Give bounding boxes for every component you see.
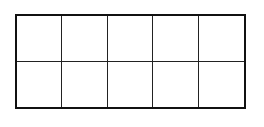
grid-cell-r0-c1: [62, 16, 107, 62]
grid-cell-r0-c0: [17, 16, 62, 62]
grid-cell-r0-c3: [153, 16, 198, 62]
grid-cell-r1-c1: [62, 62, 107, 108]
grid-cell-r0-c2: [108, 16, 153, 62]
ten-frame-grid: [15, 14, 246, 109]
grid-cell-r1-c0: [17, 62, 62, 108]
grid-cell-r0-c4: [199, 16, 244, 62]
grid-cell-r1-c4: [199, 62, 244, 108]
grid-cell-r1-c2: [108, 62, 153, 108]
grid-cell-r1-c3: [153, 62, 198, 108]
